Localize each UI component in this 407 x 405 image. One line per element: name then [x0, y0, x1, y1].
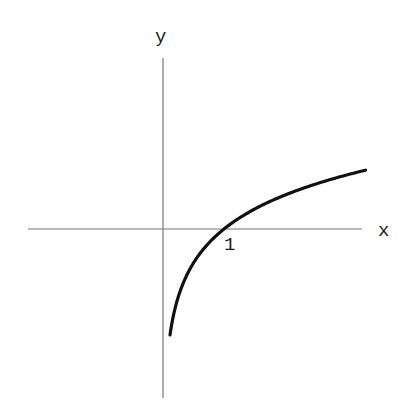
y-axis-label: y [155, 26, 166, 48]
tick-label-one: 1 [224, 234, 235, 256]
log-function-graph: x y 1 [0, 0, 407, 405]
x-axis-label: x [378, 220, 389, 242]
ln-curve [170, 170, 366, 335]
